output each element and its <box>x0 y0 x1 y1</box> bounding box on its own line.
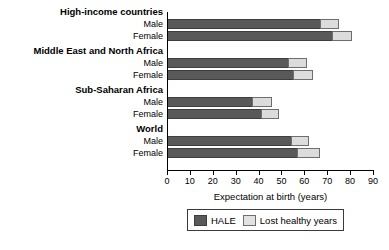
bar-segment-hale <box>167 19 320 29</box>
bar-segment-hale <box>167 70 293 80</box>
bar-row <box>167 136 309 146</box>
x-tick-label-20: 20 <box>203 176 223 187</box>
x-tick-label-90: 90 <box>363 176 383 187</box>
bar-segment-lost-healthy-years <box>332 31 353 41</box>
legend-item-lost-healthy-years: Lost healthy years <box>243 215 337 226</box>
bar-segment-lost-healthy-years <box>252 97 273 107</box>
bar-segment-hale <box>167 109 261 119</box>
x-tick-80 <box>350 171 351 175</box>
bar-row <box>167 19 339 29</box>
bar-segment-hale <box>167 31 332 41</box>
bar-segment-lost-healthy-years <box>261 109 279 119</box>
row-label-female: Female <box>133 31 163 41</box>
x-axis-title: Expectation at birth (years) <box>167 191 374 202</box>
row-label-female: Female <box>133 109 163 119</box>
plot-area <box>167 12 373 170</box>
x-tick-60 <box>304 171 305 175</box>
legend-swatch-lost-healthy-years-icon <box>243 215 256 226</box>
bar-row <box>167 58 307 68</box>
bar-segment-hale <box>167 136 291 146</box>
x-tick-label-80: 80 <box>340 176 360 187</box>
x-tick-label-40: 40 <box>249 176 269 187</box>
bar-row <box>167 31 352 41</box>
x-tick-20 <box>213 171 214 175</box>
x-tick-label-0: 0 <box>157 176 177 187</box>
hale-stacked-bar-chart: High-income countriesMaleFemaleMiddle Ea… <box>0 0 389 250</box>
bar-segment-lost-healthy-years <box>320 19 338 29</box>
row-label-female: Female <box>133 70 163 80</box>
x-tick-30 <box>236 171 237 175</box>
x-tick-50 <box>281 171 282 175</box>
x-tick-90 <box>373 171 374 175</box>
category-label-column: High-income countriesMaleFemaleMiddle Ea… <box>0 12 163 170</box>
x-tick-label-70: 70 <box>317 176 337 187</box>
bar-segment-hale <box>167 148 297 158</box>
x-tick-10 <box>190 171 191 175</box>
group-label-world: World <box>136 124 163 134</box>
x-tick-label-30: 30 <box>226 176 246 187</box>
row-label-male: Male <box>143 58 163 68</box>
x-tick-70 <box>327 171 328 175</box>
x-tick-label-10: 10 <box>180 176 200 187</box>
x-tick-40 <box>259 171 260 175</box>
x-tick-label-50: 50 <box>271 176 291 187</box>
row-label-male: Male <box>143 19 163 29</box>
bar-segment-lost-healthy-years <box>291 136 309 146</box>
x-tick-0 <box>167 171 168 175</box>
y-axis-line <box>167 12 168 171</box>
row-label-female: Female <box>133 148 163 158</box>
bar-row <box>167 97 272 107</box>
legend-label-hale: HALE <box>211 215 236 226</box>
row-label-male: Male <box>143 136 163 146</box>
bar-segment-hale <box>167 58 288 68</box>
bar-row <box>167 148 320 158</box>
x-tick-label-60: 60 <box>294 176 314 187</box>
legend-swatch-hale-icon <box>194 215 207 226</box>
bar-segment-lost-healthy-years <box>297 148 320 158</box>
x-axis-line <box>167 170 374 171</box>
group-label-high-income-countries: High-income countries <box>60 7 163 17</box>
bar-row <box>167 70 313 80</box>
bar-segment-lost-healthy-years <box>293 70 314 80</box>
legend-label-lost-healthy-years: Lost healthy years <box>260 215 337 226</box>
bar-segment-hale <box>167 97 252 107</box>
legend-item-hale: HALE <box>194 215 236 226</box>
chart-legend: HALE Lost healthy years <box>187 209 344 231</box>
bar-segment-lost-healthy-years <box>288 58 306 68</box>
group-label-sub-saharan-africa: Sub-Saharan Africa <box>75 85 163 95</box>
bar-row <box>167 109 279 119</box>
row-label-male: Male <box>143 97 163 107</box>
group-label-middle-east-and-north-africa: Middle East and North Africa <box>34 46 164 56</box>
